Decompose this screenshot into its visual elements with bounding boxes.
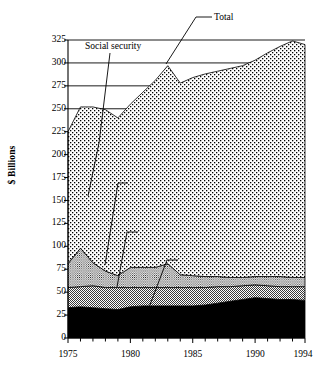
leader-total <box>166 17 212 64</box>
area-social-security <box>68 41 305 278</box>
plot-canvas <box>0 0 327 384</box>
stacked-area-chart: $ Billions 325 300 275 250 225 200 175 1… <box>0 0 327 384</box>
